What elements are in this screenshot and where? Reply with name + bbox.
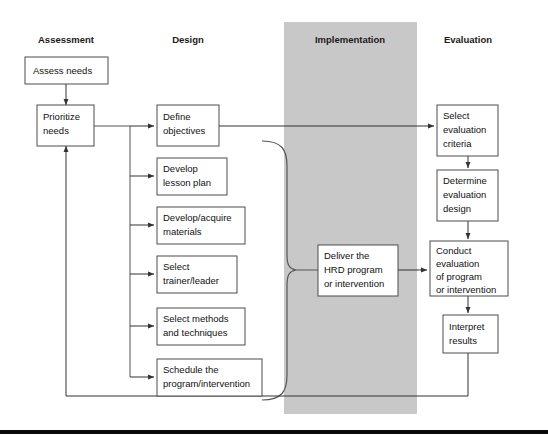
node-develop-materials[interactable]: Develop/acquire materials xyxy=(157,207,245,244)
node-schedule-program-line-0: Schedule the xyxy=(163,364,218,375)
bottom-rule xyxy=(0,430,548,434)
column-header-evaluation: Evaluation xyxy=(444,34,492,45)
node-deliver-program-line-2: or intervention xyxy=(324,278,384,289)
node-deliver-program-line-0: Deliver the xyxy=(324,250,369,261)
node-select-methods-line-1: and techniques xyxy=(163,327,228,338)
node-select-trainer[interactable]: Select trainer/leader xyxy=(157,256,237,293)
column-header-design: Design xyxy=(172,34,204,45)
node-conduct-evaluation-line-2: of program xyxy=(436,271,482,282)
node-select-criteria[interactable]: Select evaluation criteria xyxy=(437,105,498,156)
node-determine-design-line-0: Determine xyxy=(443,175,487,186)
node-select-methods-line-0: Select methods xyxy=(163,313,229,324)
node-select-methods[interactable]: Select methods and techniques xyxy=(157,308,245,345)
node-prioritize-needs-line-1: needs xyxy=(43,125,69,136)
node-interpret-results[interactable]: Interpret results xyxy=(443,315,498,353)
node-determine-design[interactable]: Determine evaluation design xyxy=(437,170,498,221)
node-select-trainer-line-1: trainer/leader xyxy=(163,275,219,286)
node-assess-needs-line-0: Assess needs xyxy=(33,65,92,76)
hrd-process-diagram: Assessment Design Implementation Evaluat… xyxy=(0,0,548,443)
node-schedule-program-line-1: program/intervention xyxy=(163,378,250,389)
node-conduct-evaluation-line-1: evaluation xyxy=(436,258,479,269)
node-select-trainer-line-0: Select xyxy=(163,261,190,272)
node-develop-materials-line-1: materials xyxy=(163,226,202,237)
node-deliver-program[interactable]: Deliver the HRD program or intervention xyxy=(318,245,398,296)
node-conduct-evaluation-line-3: or intervention xyxy=(436,284,496,295)
column-header-implementation: Implementation xyxy=(315,34,385,45)
node-conduct-evaluation[interactable]: Conduct evaluation of program or interve… xyxy=(430,241,508,296)
node-select-criteria-line-1: evaluation xyxy=(443,124,486,135)
node-interpret-results-line-1: results xyxy=(449,335,477,346)
node-prioritize-needs[interactable]: Prioritize needs xyxy=(37,105,94,146)
node-develop-lesson-plan[interactable]: Develop lesson plan xyxy=(157,158,227,195)
node-assess-needs[interactable]: Assess needs xyxy=(25,57,108,84)
node-define-objectives-line-0: Define xyxy=(163,111,190,122)
node-prioritize-needs-line-0: Prioritize xyxy=(43,111,80,122)
node-schedule-program[interactable]: Schedule the program/intervention xyxy=(157,359,262,396)
diagram-canvas: Assessment Design Implementation Evaluat… xyxy=(0,0,548,443)
node-select-criteria-line-2: criteria xyxy=(443,138,472,149)
node-determine-design-line-2: design xyxy=(443,203,471,214)
column-header-assessment: Assessment xyxy=(38,34,95,45)
node-determine-design-line-1: evaluation xyxy=(443,189,486,200)
node-select-criteria-line-0: Select xyxy=(443,110,470,121)
node-develop-lesson-plan-line-0: Develop xyxy=(163,163,198,174)
implementation-highlight-band xyxy=(284,22,417,414)
node-develop-materials-line-0: Develop/acquire xyxy=(163,212,232,223)
node-define-objectives[interactable]: Define objectives xyxy=(157,105,219,146)
node-conduct-evaluation-line-0: Conduct xyxy=(436,245,472,256)
node-interpret-results-line-0: Interpret xyxy=(449,321,485,332)
node-deliver-program-line-1: HRD program xyxy=(324,264,383,275)
node-develop-lesson-plan-line-1: lesson plan xyxy=(163,177,211,188)
node-define-objectives-line-1: objectives xyxy=(163,125,205,136)
